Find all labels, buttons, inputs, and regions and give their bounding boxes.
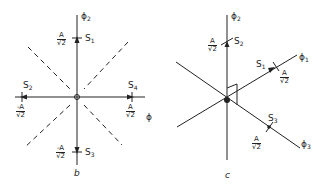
b-state-s4: S4 xyxy=(128,81,138,92)
c-state-s3: S3 xyxy=(268,114,278,125)
c-caption: c xyxy=(225,170,230,180)
c-state-s2: S2 xyxy=(234,37,244,48)
c-value-s2: A√2 xyxy=(208,38,217,53)
b-value-s3: -A√2 xyxy=(56,145,65,160)
c-value-s1: A√2 xyxy=(280,70,289,85)
b-state-s1: S1 xyxy=(85,34,95,45)
b-axis-label-phi2: ϕ2 xyxy=(81,12,91,23)
b-dashed-diagonal xyxy=(84,105,122,145)
b-value-s1: A√2 xyxy=(57,32,66,47)
c-axis-label-phi3: ϕ3 xyxy=(301,140,311,151)
b-value-s2: -A√2 xyxy=(16,104,25,119)
b-dashed-diagonal xyxy=(84,42,128,89)
c-axis-label-phi2: ϕ2 xyxy=(231,12,241,23)
b-caption: b xyxy=(74,168,80,178)
b-state-s3: S3 xyxy=(85,148,95,159)
b-axis-label-phi: ϕ xyxy=(146,113,152,122)
c-state-s1: S1 xyxy=(256,60,266,71)
b-state-s2: S2 xyxy=(23,81,33,92)
c-axis-label-phi1: ϕ1 xyxy=(299,53,309,64)
c-origin xyxy=(224,97,230,103)
b-value-s4: A√2 xyxy=(126,104,135,119)
c-value-s3: A√2 xyxy=(252,136,261,151)
b-dashed-diagonal xyxy=(24,105,70,148)
b-dashed-diagonal xyxy=(28,47,70,89)
diagram-canvas xyxy=(0,0,325,187)
